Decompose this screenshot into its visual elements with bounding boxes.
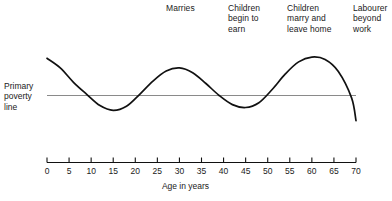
x-axis-tick-label: 30 [168, 166, 190, 176]
x-axis-tick-label: 15 [102, 166, 124, 176]
income-curve [47, 57, 356, 121]
x-axis-tick-label: 50 [257, 166, 279, 176]
x-axis-tick-label: 65 [323, 166, 345, 176]
x-axis-tick-label: 55 [279, 166, 301, 176]
x-axis-tick-label: 20 [124, 166, 146, 176]
x-axis-tick-label: 35 [191, 166, 213, 176]
x-axis-title: Age in years [0, 181, 371, 191]
x-axis-tick-label: 60 [301, 166, 323, 176]
x-axis-tick-label: 0 [36, 166, 58, 176]
x-axis-tick-label: 25 [146, 166, 168, 176]
annotation-marries: Marries [166, 3, 226, 13]
x-axis-ticks [47, 158, 356, 163]
x-axis-tick-label: 10 [80, 166, 102, 176]
annotation-children-begin-to-earn: Children begin to earn [228, 3, 290, 34]
annotation-children-marry-leave-home: Children marry and leave home [287, 3, 355, 34]
x-axis-tick-label: 70 [345, 166, 367, 176]
x-axis-tick-label: 5 [58, 166, 80, 176]
x-axis-tick-label: 40 [213, 166, 235, 176]
x-axis-tick-label: 45 [235, 166, 257, 176]
annotation-labourer-beyond-work: Labourer beyond work [353, 3, 392, 34]
primary-poverty-line-label: Primary poverty line [4, 81, 52, 112]
